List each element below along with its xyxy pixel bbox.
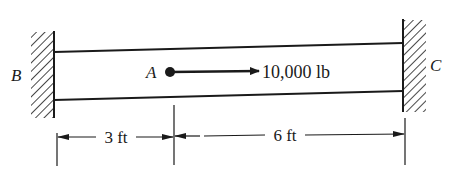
point-label-a: A [145,63,157,82]
dim-arrow-right-icon [305,134,404,135]
right-fixed-support [403,19,426,112]
beam-bottom-edge [54,91,403,100]
force-arrow-icon [170,71,259,72]
beam-top-edge [54,43,403,52]
dimension-label-6ft: 6 ft [273,126,296,145]
beam-diagram: B C A 10,000 lb 3 ft 6 ft [0,0,457,189]
dimension-3ft: 3 ft [58,128,173,147]
left-wall-hatch [31,32,53,118]
support-label-b: B [11,66,22,85]
load-value: 10,000 lb [262,62,330,82]
dim-line-left [204,135,265,136]
left-fixed-support [31,31,54,118]
dimension-label-3ft: 3 ft [104,128,127,147]
right-wall-hatch [404,20,426,112]
support-label-c: C [430,56,442,75]
dimension-6ft: 6 ft [175,126,404,145]
